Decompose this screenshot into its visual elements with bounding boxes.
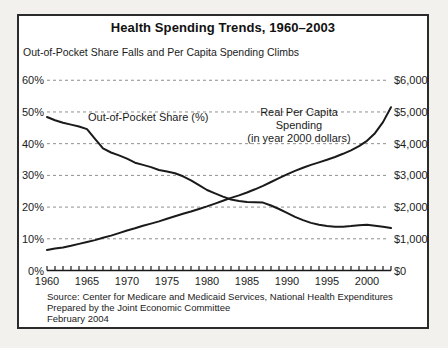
source-note: Source: Center for Medicare and Medicaid… — [47, 291, 393, 302]
y-axis-label-right: $5,000 — [394, 106, 446, 118]
y-axis-label-right: $1,000 — [394, 233, 446, 245]
spending-series-label-line1: Real Per Capita Spending — [260, 106, 338, 131]
y-axis-label-left: 40% — [0, 138, 44, 150]
x-axis-label: 1960 — [35, 275, 59, 287]
y-axis-label-left: 60% — [0, 74, 44, 86]
y-axis-label-right: $6,000 — [394, 74, 446, 86]
x-axis-label: 1985 — [235, 275, 259, 287]
x-axis-label: 1965 — [75, 275, 99, 287]
spending-series-label-line2: (in year 2000 dollars) — [247, 132, 350, 144]
spending-series-label: Real Per Capita Spending (in year 2000 d… — [237, 106, 361, 145]
date-note: February 2004 — [47, 313, 393, 324]
prepared-by-note: Prepared by the Joint Economic Committee — [47, 302, 393, 313]
y-axis-label-left: 50% — [0, 106, 44, 118]
y-axis-label-right: $4,000 — [394, 138, 446, 150]
y-axis-label-right: $2,000 — [394, 201, 446, 213]
y-axis-label-right: $0 — [394, 265, 446, 277]
y-axis-label-left: 20% — [0, 201, 44, 213]
y-axis-label-left: 10% — [0, 233, 44, 245]
x-axis-label: 2000 — [355, 275, 379, 287]
screenshot-root: { "chart": { "title": "Health Spending T… — [0, 0, 448, 348]
x-axis-label: 1995 — [315, 275, 339, 287]
source-block: Source: Center for Medicare and Medicaid… — [47, 291, 393, 324]
x-axis-label: 1970 — [115, 275, 139, 287]
y-axis-label-right: $3,000 — [394, 169, 446, 181]
x-axis-label: 1990 — [275, 275, 299, 287]
x-axis-label: 1975 — [155, 275, 179, 287]
oop-series-label: Out-of-Pocket Share (%) — [88, 111, 208, 123]
chart-title: Health Spending Trends, 1960–2003 — [17, 20, 429, 35]
x-axis-label: 1980 — [195, 275, 219, 287]
y-axis-label-left: 30% — [0, 169, 44, 181]
chart-subtitle: Out-of-Pocket Share Falls and Per Capita… — [23, 46, 299, 58]
